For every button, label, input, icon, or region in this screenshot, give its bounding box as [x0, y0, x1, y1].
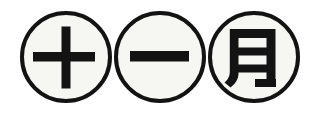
three-circles-kanji-artwork [0, 0, 316, 115]
artwork-stage: 十一月 November [0, 0, 316, 115]
moon-middle-stroke-two [236, 65, 270, 73]
ten-vertical-stroke [62, 27, 71, 89]
circle-group-three [210, 13, 298, 101]
one-horizontal-stroke [130, 51, 189, 62]
moon-middle-stroke-one [236, 48, 270, 56]
glyph-one [130, 51, 189, 62]
circle-group-two [116, 13, 204, 101]
circle-group-one [22, 13, 110, 101]
moon-bottom-stroke [255, 79, 276, 87]
moon-right-stroke [267, 29, 276, 87]
circle-outline-three [210, 13, 298, 101]
